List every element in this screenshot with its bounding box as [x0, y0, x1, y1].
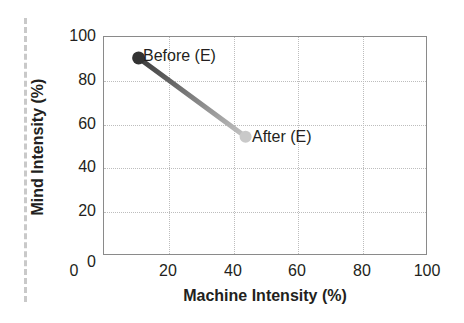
y-tick-label-60: 60 [50, 115, 96, 133]
x-axis-title: Machine Intensity (%) [103, 287, 427, 305]
y-tick-label-20: 20 [50, 202, 96, 220]
chart-figure: Before (E) After (E) 0 20 40 60 80 100 1… [0, 0, 464, 323]
x-tick-label-80: 80 [353, 262, 371, 280]
page-gutter-dashed-rule [24, 18, 27, 302]
x-tick-label-40: 40 [224, 262, 242, 280]
series-line-E [139, 58, 246, 137]
y-tick-label-100: 100 [50, 27, 96, 45]
annotation-before: Before (E) [143, 47, 216, 65]
y-tick-label-0: 0 [62, 253, 96, 271]
x-tick-label-60: 60 [288, 262, 306, 280]
annotation-after: After (E) [252, 128, 312, 146]
data-point-after [240, 131, 252, 143]
y-tick-label-80: 80 [50, 71, 96, 89]
y-tick-label-40: 40 [50, 158, 96, 176]
x-tick-label-100: 100 [414, 262, 441, 280]
y-axis-title: Mind Intensity (%) [29, 47, 47, 247]
x-tick-label-20: 20 [159, 262, 177, 280]
